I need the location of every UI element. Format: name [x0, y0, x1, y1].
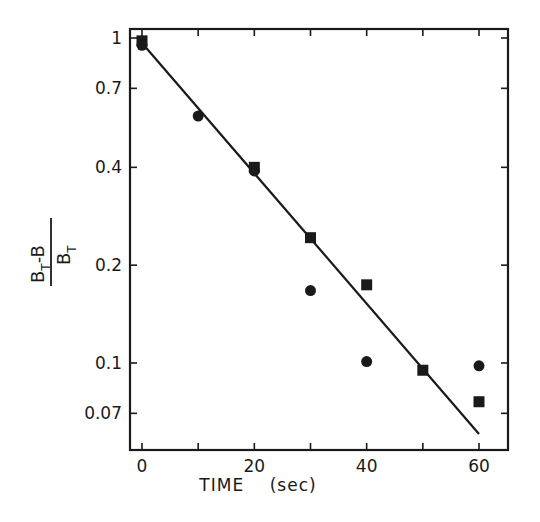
square-marker [417, 365, 428, 376]
plot-frame [130, 29, 508, 450]
chart: 0204060 10.70.40.20.10.07 TIME (sec) BT-… [0, 0, 540, 522]
circle-marker [361, 356, 372, 367]
y-label-numerator: BT-B [27, 245, 53, 283]
circle-marker [474, 360, 485, 371]
x-tick-label: 20 [244, 456, 266, 476]
circle-marker [193, 111, 204, 122]
y-label-denominator: BT [53, 245, 79, 265]
circle-marker [137, 40, 148, 51]
x-tick-label: 40 [356, 456, 378, 476]
x-axis-title: TIME (sec) [198, 475, 316, 495]
circle-marker [249, 165, 260, 176]
y-tick-label: 0.2 [95, 255, 122, 275]
y-axis-title: BT-B BT [27, 218, 79, 286]
y-tick-label: 0.7 [95, 78, 122, 98]
circle-marker [305, 285, 316, 296]
x-tick-label: 0 [137, 456, 148, 476]
y-tick-label: 0.07 [84, 403, 122, 423]
y-tick-label: 0.4 [95, 157, 122, 177]
y-tick-label: 0.1 [95, 353, 122, 373]
square-marker [361, 279, 372, 290]
data-series [137, 35, 485, 434]
x-tick-label: 60 [468, 456, 490, 476]
x-axis-tick-labels: 0204060 [137, 456, 490, 476]
y-axis-tick-labels: 10.70.40.20.10.07 [84, 28, 122, 423]
square-marker [305, 232, 316, 243]
square-marker [474, 396, 485, 407]
y-tick-label: 1 [111, 28, 122, 48]
